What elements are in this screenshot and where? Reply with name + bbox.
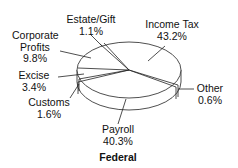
label-other-pct: 0.6% (194, 95, 226, 107)
label-excise: Excise 3.4% (18, 70, 50, 93)
label-customs-pct: 1.6% (27, 109, 71, 121)
label-other: Other 0.6% (194, 83, 226, 106)
label-corporate-name1: Corporate (12, 30, 58, 42)
label-estate-gift: Estate/Gift 1.1% (66, 14, 116, 37)
label-income-tax-pct: 43.2% (140, 31, 204, 43)
label-customs: Customs 1.6% (27, 97, 71, 120)
label-corporate-pct: 9.8% (12, 53, 58, 65)
label-estate-pct: 1.1% (66, 26, 116, 38)
label-payroll-name: Payroll (96, 124, 140, 136)
label-customs-name: Customs (27, 97, 71, 109)
label-income-tax-name: Income Tax (140, 19, 204, 31)
label-corporate-profits: Corporate Profits 9.8% (12, 30, 58, 65)
label-excise-pct: 3.4% (18, 82, 50, 94)
label-payroll: Payroll 40.3% (96, 124, 140, 147)
chart-title: Federal (96, 151, 140, 163)
label-payroll-pct: 40.3% (96, 136, 140, 148)
label-estate-name: Estate/Gift (66, 14, 116, 26)
label-excise-name: Excise (18, 70, 50, 82)
label-other-name: Other (194, 83, 226, 95)
label-income-tax: Income Tax 43.2% (140, 19, 204, 42)
